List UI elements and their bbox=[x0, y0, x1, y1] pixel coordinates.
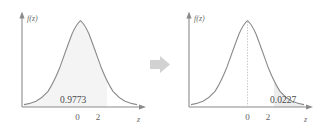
right-x-axis-label: z bbox=[303, 115, 308, 124]
cumulative-probability-panel: f(z) z 0.9773 0 2 bbox=[19, 12, 146, 125]
right-y-axis-arrow-icon bbox=[186, 12, 191, 19]
left-y-axis-arrow-icon bbox=[19, 12, 24, 19]
left-y-axis-label: f(z) bbox=[27, 14, 38, 23]
right-area-label: 0.0227 bbox=[270, 95, 296, 105]
right-x-axis-arrow-icon bbox=[306, 104, 313, 109]
right-y-axis-label: f(z) bbox=[194, 14, 205, 23]
right-tick-label-2: 2 bbox=[266, 112, 271, 122]
upper-tail-probability-panel: f(z) z 0.0227 0 2 bbox=[186, 12, 313, 125]
left-tick-label-0: 0 bbox=[75, 112, 80, 122]
transition-arrow-icon bbox=[150, 56, 170, 73]
left-tick-label-2: 2 bbox=[96, 112, 101, 122]
left-area-label: 0.9773 bbox=[60, 95, 86, 105]
right-tick-label-0: 0 bbox=[245, 112, 250, 122]
left-x-axis-label: z bbox=[136, 115, 141, 124]
left-x-axis-arrow-icon bbox=[139, 104, 146, 109]
normal-distribution-figure: f(z) z 0.9773 0 2 f(z) z 0.0227 0 bbox=[0, 0, 325, 129]
